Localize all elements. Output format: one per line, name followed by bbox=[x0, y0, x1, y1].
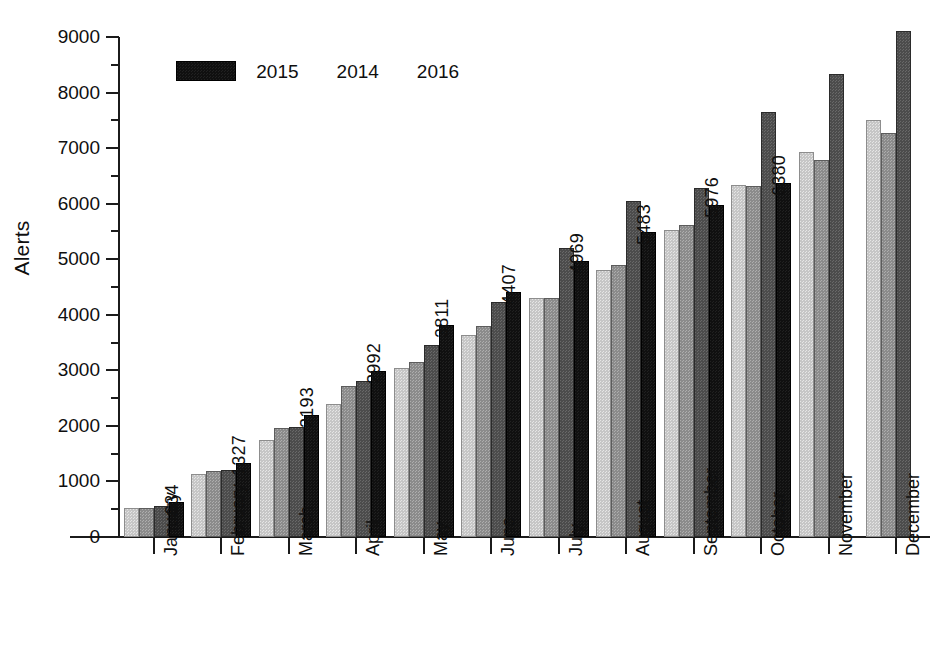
x-tick-label-august: August bbox=[633, 500, 654, 556]
bar-value-label-july: 4969 bbox=[567, 233, 588, 274]
bar-2013-september bbox=[664, 230, 679, 537]
bar-value-label-march: 2193 bbox=[297, 387, 318, 428]
x-tick-label-february: February bbox=[228, 484, 249, 556]
bar-2016-july bbox=[574, 261, 589, 537]
x-tick bbox=[828, 538, 830, 554]
x-tick-label-december: December bbox=[903, 473, 924, 556]
bar-2015-december bbox=[896, 31, 911, 537]
bar-value-label-january: 634 bbox=[162, 484, 183, 515]
bar-2015-april bbox=[356, 381, 371, 537]
bar-value-label-june: 4407 bbox=[499, 264, 520, 305]
legend-label-2015: 2015 bbox=[256, 62, 322, 81]
bar-2013-april bbox=[326, 404, 341, 537]
bar-2015-july bbox=[559, 248, 574, 537]
bar-2016-october bbox=[776, 183, 791, 537]
bar-2014-december bbox=[881, 133, 896, 537]
x-tick-label-july: July bbox=[566, 524, 587, 556]
bar-2013-may bbox=[394, 368, 409, 537]
bar-2016-june bbox=[506, 292, 521, 537]
bar-value-label-february: 1327 bbox=[229, 435, 250, 476]
bar-2015-june bbox=[491, 302, 506, 537]
x-tick-label-april: April bbox=[363, 520, 384, 556]
bar-value-label-september: 5976 bbox=[702, 177, 723, 218]
x-tick bbox=[558, 538, 560, 554]
bar-2013-february bbox=[191, 474, 206, 537]
x-tick bbox=[895, 538, 897, 554]
x-tick bbox=[490, 538, 492, 554]
x-tick bbox=[153, 538, 155, 554]
bar-2013-july bbox=[529, 298, 544, 537]
x-tick-label-september: September bbox=[701, 468, 722, 556]
bar-2014-august bbox=[611, 265, 626, 537]
bar-2016-april bbox=[371, 371, 386, 537]
legend-label-2014: 2014 bbox=[337, 62, 403, 81]
bar-value-label-april: 2992 bbox=[364, 343, 385, 384]
bar-value-label-may: 3811 bbox=[432, 299, 453, 339]
bar-2014-may bbox=[409, 362, 424, 537]
bar-chart: Alerts 010002000300040005000600070008000… bbox=[0, 0, 943, 672]
legend-swatch-2016 bbox=[176, 61, 236, 81]
x-tick-label-november: November bbox=[836, 473, 857, 556]
bar-2013-march bbox=[259, 440, 274, 538]
bar-value-label-august: 5483 bbox=[634, 205, 655, 246]
bar-2016-august bbox=[641, 232, 656, 537]
bar-2015-november bbox=[829, 74, 844, 537]
bar-2014-june bbox=[476, 326, 491, 537]
bar-2015-may bbox=[424, 345, 439, 538]
bar-2014-november bbox=[814, 160, 829, 537]
x-tick-label-march: March bbox=[296, 506, 317, 556]
bar-2013-august bbox=[596, 270, 611, 537]
bar-2013-june bbox=[461, 335, 476, 537]
x-tick bbox=[220, 538, 222, 554]
x-tick-label-october: October bbox=[768, 492, 789, 556]
bar-2014-september bbox=[679, 225, 694, 537]
x-tick-label-june: June bbox=[498, 517, 519, 556]
x-tick bbox=[760, 538, 762, 554]
x-tick bbox=[693, 538, 695, 554]
legend: 2013 2015 2014 2016 bbox=[176, 62, 483, 81]
bar-2014-july bbox=[544, 298, 559, 537]
bar-2014-march bbox=[274, 428, 289, 537]
bar-2013-december bbox=[866, 120, 881, 537]
x-tick bbox=[288, 538, 290, 554]
x-tick-label-may: May bbox=[431, 522, 452, 556]
legend-label-2016: 2016 bbox=[417, 62, 483, 81]
bar-2014-october bbox=[746, 186, 761, 537]
bar-2013-january bbox=[124, 508, 139, 537]
bar-2014-february bbox=[206, 471, 221, 537]
bar-2013-october bbox=[731, 185, 746, 537]
bar-2014-april bbox=[341, 386, 356, 537]
bar-2014-january bbox=[139, 508, 154, 537]
bar-value-label-october: 6380 bbox=[769, 155, 790, 196]
bar-2016-may bbox=[439, 325, 454, 537]
x-tick bbox=[355, 538, 357, 554]
bar-2013-november bbox=[799, 152, 814, 537]
x-tick bbox=[625, 538, 627, 554]
x-tick bbox=[423, 538, 425, 554]
bar-2015-august bbox=[626, 201, 641, 537]
